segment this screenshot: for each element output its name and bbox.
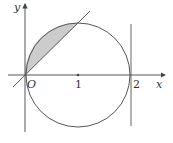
diagram-canvas: y x O 1 2 (0, 0, 173, 143)
y-axis-label: y (13, 1, 21, 14)
tick-2-label: 2 (133, 78, 140, 91)
tick-1-dot (77, 74, 80, 77)
tick-1-label: 1 (75, 78, 82, 91)
x-axis-label: x (156, 78, 163, 91)
origin-label: O (27, 78, 36, 91)
